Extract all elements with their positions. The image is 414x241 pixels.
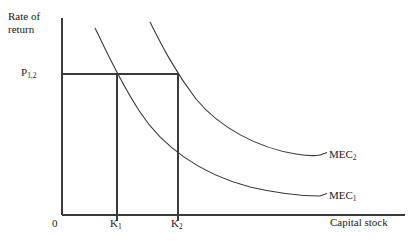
diagram-canvas bbox=[0, 0, 414, 241]
origin-label: 0 bbox=[52, 217, 58, 230]
curve-mec2-leader bbox=[320, 153, 327, 156]
tick-label-k1: K1 bbox=[110, 217, 122, 230]
curve-label-mec2: MEC2 bbox=[329, 148, 357, 161]
tick-label-k2-subscript: 2 bbox=[179, 222, 183, 231]
tick-label-k2: K2 bbox=[171, 217, 183, 230]
y-axis-title-line2: return bbox=[8, 23, 34, 35]
price-label-subscript: 1,2 bbox=[27, 71, 36, 80]
curve-label-mec2-subscript: 2 bbox=[353, 153, 357, 162]
mec-capital-stock-diagram: Rate of return Capital stock P1,2 0 K1 K… bbox=[0, 0, 414, 241]
curve-mec2 bbox=[150, 22, 320, 156]
tick-label-k1-base: K bbox=[110, 217, 118, 229]
curve-label-mec2-base: MEC bbox=[329, 148, 353, 160]
tick-label-k2-base: K bbox=[171, 217, 179, 229]
curve-label-mec1-base: MEC bbox=[329, 189, 353, 201]
x-axis-title: Capital stock bbox=[330, 216, 388, 229]
tick-label-k1-subscript: 1 bbox=[118, 222, 122, 231]
y-axis-title-line1: Rate of bbox=[8, 10, 40, 22]
price-label-p12: P1,2 bbox=[21, 66, 36, 79]
origin-label-text: 0 bbox=[52, 217, 58, 229]
curve-label-mec1: MEC1 bbox=[329, 189, 357, 202]
curve-label-mec1-subscript: 1 bbox=[353, 194, 357, 203]
curve-mec1-leader bbox=[320, 194, 327, 197]
x-axis-title-text: Capital stock bbox=[330, 216, 388, 228]
y-axis-title: Rate of return bbox=[8, 10, 40, 36]
